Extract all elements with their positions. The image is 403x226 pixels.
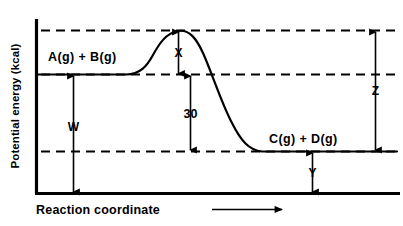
- marker-30-label: 30: [184, 107, 198, 121]
- diagram-canvas: X 30 W Y Z A(g) + B(g) C(g) + D(g) Poten…: [0, 0, 403, 226]
- x-axis-label: Reaction coordinate: [36, 203, 160, 217]
- reactants-label: A(g) + B(g): [48, 50, 117, 64]
- reaction-profile-curve: [38, 31, 397, 152]
- y-axis-label: Potential energy (kcal): [9, 43, 21, 168]
- marker-x-label: X: [174, 46, 182, 60]
- marker-y-label: Y: [308, 166, 316, 180]
- products-label: C(g) + D(g): [269, 132, 338, 146]
- marker-w-label: W: [68, 120, 80, 134]
- potential-energy-diagram: X 30 W Y Z A(g) + B(g) C(g) + D(g) Poten…: [0, 0, 403, 226]
- marker-z-label: Z: [372, 84, 379, 98]
